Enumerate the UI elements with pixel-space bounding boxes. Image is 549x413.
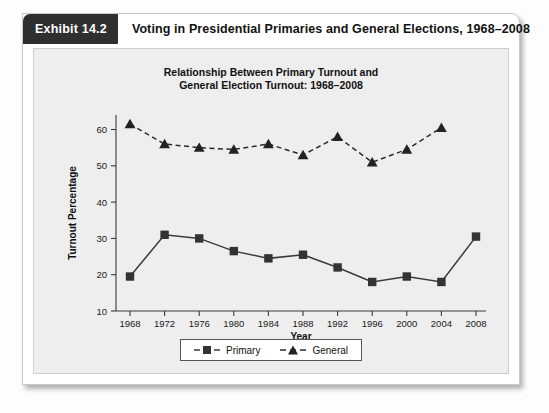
series-line (130, 124, 441, 162)
y-tick-label: 40 (96, 197, 107, 208)
data-point (125, 119, 136, 128)
data-point (230, 247, 238, 255)
y-tick-label: 10 (96, 306, 107, 317)
data-point (332, 132, 343, 141)
data-point (472, 232, 480, 240)
x-tick-label: 1988 (292, 318, 313, 329)
x-tick-label: 2000 (396, 318, 417, 329)
y-tick-label: 30 (96, 233, 107, 244)
x-tick-label: 1968 (119, 318, 140, 329)
x-tick-label: 1996 (362, 318, 383, 329)
data-point (126, 272, 134, 280)
series-general (125, 119, 447, 167)
data-point (299, 251, 307, 259)
x-tick-label: 1972 (154, 318, 175, 329)
legend-item-general: General (280, 344, 348, 356)
exhibit-header: Exhibit 14.2 Voting in Presidential Prim… (23, 14, 519, 44)
legend-label-primary: Primary (226, 345, 260, 356)
y-axis-title: Turnout Percentage (67, 166, 78, 260)
data-point (437, 278, 445, 286)
legend-item-primary: Primary (194, 344, 260, 356)
legend-primary-swatch (194, 344, 220, 356)
data-point (159, 139, 170, 148)
legend-label-general: General (312, 345, 348, 356)
series-primary (126, 231, 480, 287)
chart-legend: Primary General (180, 339, 362, 361)
data-point (403, 272, 411, 280)
line-chart: 102030405060 196819721976198019841988199… (34, 49, 510, 375)
data-point (298, 150, 309, 159)
x-tick-label: 1984 (258, 318, 279, 329)
x-axis-ticks: 1968197219761980198419881992199620002004… (119, 311, 486, 329)
y-tick-label: 50 (96, 160, 107, 171)
chart-panel: Relationship Between Primary Turnout and… (33, 48, 509, 374)
exhibit-badge: Exhibit 14.2 (23, 14, 118, 44)
data-point (436, 123, 447, 132)
x-tick-label: 1980 (223, 318, 244, 329)
data-point (264, 254, 272, 262)
x-tick-label: 2004 (431, 318, 452, 329)
data-point (263, 139, 274, 148)
data-point (333, 263, 341, 271)
data-point (401, 144, 412, 153)
exhibit-header-title: Voting in Presidential Primaries and Gen… (118, 14, 530, 44)
x-tick-label: 2008 (465, 318, 486, 329)
y-axis-ticks: 102030405060 (96, 124, 116, 316)
data-point (195, 234, 203, 242)
y-tick-label: 20 (96, 269, 107, 280)
exhibit-page: Exhibit 14.2 Voting in Presidential Prim… (0, 0, 549, 413)
x-tick-label: 1976 (189, 318, 210, 329)
legend-general-swatch (280, 344, 306, 356)
data-point (368, 278, 376, 286)
data-point (367, 157, 378, 166)
data-point (160, 231, 168, 239)
y-tick-label: 60 (96, 124, 107, 135)
x-tick-label: 1992 (327, 318, 348, 329)
exhibit-card: Exhibit 14.2 Voting in Presidential Prim… (22, 13, 520, 385)
